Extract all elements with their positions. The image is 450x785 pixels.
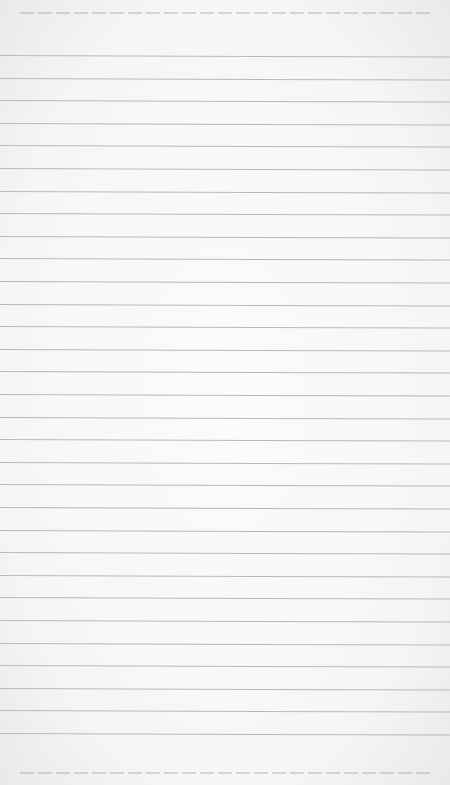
ruled-line	[0, 643, 450, 646]
ruled-line	[0, 145, 450, 148]
ruled-line	[0, 575, 450, 578]
ruled-line	[0, 55, 450, 58]
ruled-line	[0, 326, 450, 329]
ruled-line	[0, 665, 450, 668]
ruled-line	[0, 394, 450, 397]
ruled-line	[0, 688, 450, 691]
ruled-line	[0, 349, 450, 352]
ruled-line	[0, 439, 450, 442]
ruled-line	[0, 168, 450, 171]
ruled-line	[0, 620, 450, 623]
ruled-line	[0, 484, 450, 487]
faint-show-through-text-top	[20, 12, 430, 14]
ruled-line	[0, 191, 450, 194]
ruled-line	[0, 507, 450, 510]
ruled-line	[0, 78, 450, 81]
ruled-line	[0, 597, 450, 600]
ruled-line	[0, 462, 450, 465]
ruled-line	[0, 530, 450, 533]
lined-paper	[0, 0, 450, 785]
ruled-line	[0, 552, 450, 555]
ruled-line	[0, 710, 450, 713]
ruled-line	[0, 236, 450, 239]
ruled-line	[0, 123, 450, 126]
ruled-line	[0, 417, 450, 420]
ruled-line	[0, 304, 450, 307]
ruled-line	[0, 100, 450, 103]
ruled-line	[0, 281, 450, 284]
ruled-line	[0, 733, 450, 736]
ruled-line	[0, 258, 450, 261]
faint-show-through-text-bottom	[20, 772, 430, 774]
ruled-line	[0, 213, 450, 216]
ruled-line	[0, 371, 450, 374]
